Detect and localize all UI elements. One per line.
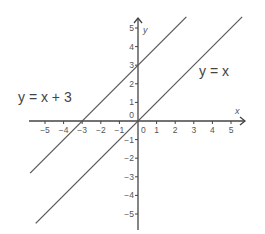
y-tick-label: 5 [129,23,134,33]
x-tick-label: −3 [77,125,87,135]
y-tick-label: −5 [124,209,134,219]
y-tick-label: −2 [124,153,134,163]
x-axis-label: x [234,106,240,116]
x-tick-label: −1 [115,125,125,135]
x-tick-label: 1 [154,125,159,135]
equation-label-y-eq-x: y = x [199,63,229,79]
coordinate-plane: −5−4−3−2−112345−5−4−3−2−11234500 x y y =… [0,0,265,234]
origin-y-label: 0 [129,110,134,120]
y-tick-label: −4 [124,190,134,200]
equation-label-y-eq-x-plus-3: y = x + 3 [18,89,72,105]
y-tick-label: 2 [129,79,134,89]
y-axis-label: y [142,25,148,35]
y-tick-label: −3 [124,172,134,182]
x-tick-label: 5 [229,125,234,135]
x-tick-label: 3 [191,125,196,135]
x-tick-label: 4 [210,125,215,135]
y-tick-label: −1 [124,135,134,145]
origin-x-label: 0 [141,125,146,135]
y-tick-label: 1 [129,97,134,107]
x-tick-label: −4 [59,125,69,135]
x-tick-label: −5 [40,125,50,135]
plot-lines [30,17,242,223]
line-y-eq-x [36,17,242,223]
y-tick-label: 3 [129,60,134,70]
y-tick-label: 4 [129,42,134,52]
x-tick-label: 2 [173,125,178,135]
x-tick-label: −2 [96,125,106,135]
